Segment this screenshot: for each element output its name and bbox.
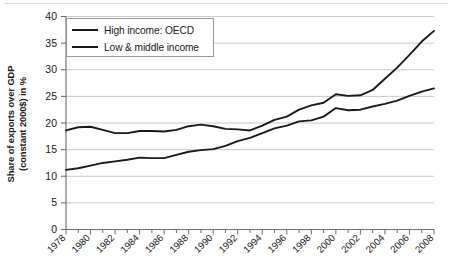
x-axis-tick-label: 1992 — [216, 232, 239, 255]
y-axis-tick-label: 20 — [45, 117, 57, 129]
x-axis-tick-label: 1980 — [69, 232, 92, 255]
y-axis-tick-label: 15 — [45, 143, 57, 155]
x-axis-tick-label: 1984 — [118, 232, 141, 255]
x-axis-tick-label: 2006 — [388, 232, 411, 255]
x-axis-tick-labels: 1978198019821984198619881990199219941996… — [45, 232, 436, 255]
x-axis-tick-label: 1986 — [143, 232, 166, 255]
y-axis-tick-label: 5 — [51, 196, 57, 208]
x-axis-tick-label: 2000 — [314, 232, 337, 255]
x-axis-tick-label: 2008 — [413, 232, 436, 255]
y-axis-tick-label: 30 — [45, 63, 57, 75]
chart-legend: High income: OECD Low & middle income — [66, 18, 214, 57]
x-axis-tick-label: 1982 — [94, 232, 117, 255]
y-axis-tick-label: 25 — [45, 90, 57, 102]
legend-item-low-middle-income: Low & middle income — [72, 38, 199, 56]
y-axis-tick-label: 40 — [45, 10, 57, 22]
x-axis-tick-label: 2004 — [363, 232, 386, 255]
x-axis-tick-label: 1978 — [45, 232, 68, 255]
legend-label: High income: OECD — [104, 25, 194, 36]
legend-line-swatch-icon — [72, 29, 98, 31]
x-axis-tick-label: 1994 — [241, 232, 264, 255]
x-axis-tick-label: 1998 — [290, 232, 313, 255]
x-axis-tick-label: 2002 — [339, 232, 362, 255]
x-axis-tick-label: 1990 — [192, 232, 215, 255]
y-axis-tick-label: 35 — [45, 37, 57, 49]
series-line — [66, 88, 434, 169]
y-axis-ticks: 0510152025303540 — [45, 10, 66, 235]
legend-line-swatch-icon — [72, 46, 98, 48]
x-axis-tick-label: 1988 — [167, 232, 190, 255]
chart-figure: Share of exports over GDP (constant 2000… — [0, 0, 452, 278]
legend-item-high-income-oecd: High income: OECD — [72, 21, 194, 39]
x-axis-tick-label: 1996 — [265, 232, 288, 255]
y-axis-tick-label: 10 — [45, 170, 57, 182]
legend-label: Low & middle income — [104, 42, 199, 53]
y-axis-tick-label: 0 — [51, 223, 57, 235]
